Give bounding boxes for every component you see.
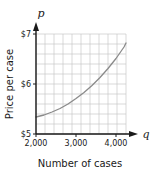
x-axis-variable-label: q bbox=[142, 128, 149, 141]
y-tick-label-5: $5 bbox=[21, 130, 31, 139]
price-vs-quantity-chart: p q $7 $6 $5 2,000 3,000 4,000 Price per… bbox=[0, 0, 152, 178]
x-tick-label-2000: 2,000 bbox=[25, 139, 48, 148]
x-tick-label-3000: 3,000 bbox=[65, 139, 88, 148]
y-axis-title: Price per case bbox=[4, 49, 15, 119]
y-tick-label-6: $6 bbox=[21, 80, 31, 89]
chart-background bbox=[0, 0, 152, 178]
y-tick-label-7: $7 bbox=[21, 30, 31, 39]
x-axis-title: Number of cases bbox=[38, 158, 122, 169]
x-tick-label-4000: 4,000 bbox=[105, 139, 128, 148]
chart-figure: p q $7 $6 $5 2,000 3,000 4,000 Price per… bbox=[0, 0, 152, 178]
y-axis-variable-label: p bbox=[37, 7, 44, 20]
